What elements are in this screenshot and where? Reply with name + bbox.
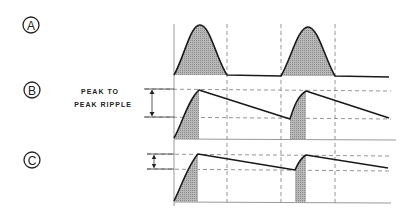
peak-level-b xyxy=(145,89,391,91)
panel-label-b: B xyxy=(24,82,40,98)
panel-label-a: A xyxy=(23,17,39,33)
panel-b-letter: B xyxy=(28,84,36,98)
ripple-arrow-c-icon xyxy=(152,155,156,169)
baseline-c xyxy=(174,202,391,203)
waveform-c xyxy=(147,154,391,203)
ripple-label-line1: PEAK TO xyxy=(81,88,119,95)
trough-level-c xyxy=(147,169,391,171)
ripple-arrow-b-icon xyxy=(150,90,155,117)
trough-level-b xyxy=(145,117,391,119)
ripple-label-line2: PEAK RIPPLE xyxy=(74,101,132,108)
baseline-b xyxy=(174,139,396,140)
panel-label-c: C xyxy=(24,152,40,168)
panel-a-letter: A xyxy=(27,19,35,33)
waveform-b xyxy=(144,89,396,140)
peak-level-c xyxy=(147,154,391,156)
panel-c-letter: C xyxy=(28,154,37,168)
waveform-a xyxy=(174,25,389,77)
rectifier-waveform-diagram: A B C PEAK TO PEAK RIPPLE xyxy=(0,0,411,215)
